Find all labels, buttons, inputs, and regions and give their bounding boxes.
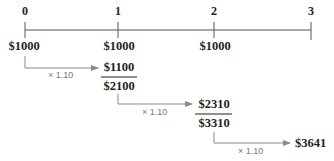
arrow-step-1 [25,56,98,68]
multiplier-2: × 1.10 [142,107,167,117]
period-label-2: 2 [211,4,217,19]
deposit-0: $1000 [8,39,39,54]
multiplier-1: × 1.10 [48,70,73,80]
sum-amount-1: $2100 [103,79,134,94]
final-amount: $3641 [295,136,326,151]
multiplier-3: × 1.10 [238,146,263,156]
diagram-lines [0,0,334,161]
period-label-0: 0 [22,4,28,19]
grown-amount-1: $1100 [104,60,135,75]
grown-amount-2: $2310 [198,97,229,112]
period-label-3: 3 [308,4,314,19]
deposit-1: $1000 [103,39,134,54]
period-label-1: 1 [115,4,121,19]
arrow-step-3 [214,132,290,143]
arrow-step-2 [118,94,192,104]
sum-amount-2: $3310 [198,116,229,131]
deposit-2: $1000 [199,39,230,54]
